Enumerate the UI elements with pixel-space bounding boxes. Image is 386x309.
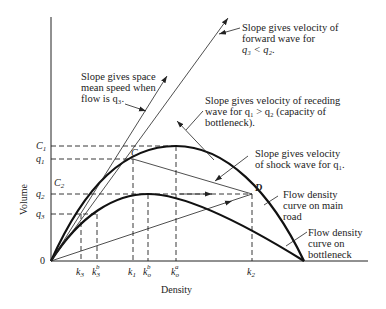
y-tick-C2: C2 <box>54 177 65 190</box>
origin-label: 0 <box>40 255 45 266</box>
leader-receding-wave <box>186 111 203 130</box>
leader-forward-wave <box>219 28 240 34</box>
annotation-space-mean-speed: Slope gives space mean speed when flow i… <box>81 71 158 104</box>
x-tick-koa: koa <box>171 263 179 279</box>
point-D-label: D <box>254 182 262 193</box>
x-tick-k3: k3 <box>76 266 84 279</box>
y-tick-q2: q2 <box>36 188 45 201</box>
y-tick-q1: q1 <box>36 153 45 166</box>
y-axis-label: Volume <box>18 184 29 215</box>
annotation-receding-wave: Slope gives velocity of receding wave fo… <box>205 95 343 129</box>
y-tick-q3: q3 <box>36 208 45 221</box>
annotation-main-road-curve: Flow density curve on main road <box>283 189 346 222</box>
point-C-label: C <box>131 147 138 158</box>
x-tick-kob: kob <box>143 263 151 279</box>
annotation-bottleneck-curve: Flow density curve on bottleneck <box>308 227 365 260</box>
leader-shock-wave <box>215 156 248 181</box>
y-tick-C1: C1 <box>36 140 46 153</box>
annotation-forward-wave: Slope gives velocity of forward wave for… <box>242 22 341 55</box>
x-tick-k3b: k3b <box>92 263 100 279</box>
leader-space-mean-speed <box>125 104 146 111</box>
diagram-canvas: 0 Density Volume C1 q1 C2 q2 q3 k3 k3b k… <box>0 0 386 309</box>
shock-wave-line <box>133 159 252 194</box>
x-axis-label: Density <box>161 284 192 295</box>
x-tick-k1: k1 <box>128 266 136 279</box>
forward-wave-line <box>51 18 228 261</box>
x-tick-k2: k2 <box>247 266 255 279</box>
annotation-shock-wave: Slope gives velocity of shock wave for q… <box>255 148 345 170</box>
